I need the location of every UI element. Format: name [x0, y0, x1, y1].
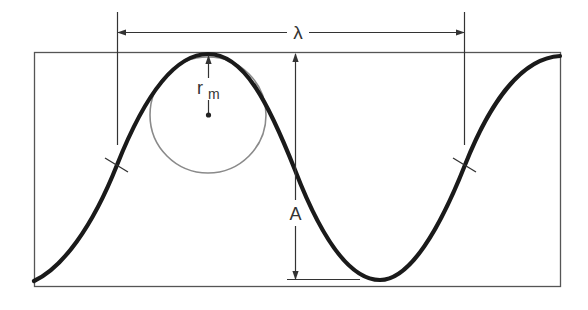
- amplitude-label: A: [289, 204, 301, 224]
- radius-label-main: r: [197, 78, 203, 98]
- radius-label-sub: m: [208, 86, 220, 102]
- radius-label: r m: [197, 78, 220, 102]
- wavelength-label: λ: [293, 22, 303, 43]
- circle-center-dot: [206, 112, 211, 117]
- wave-diagram: λ r m A: [0, 0, 588, 310]
- wave-curve: [34, 54, 560, 281]
